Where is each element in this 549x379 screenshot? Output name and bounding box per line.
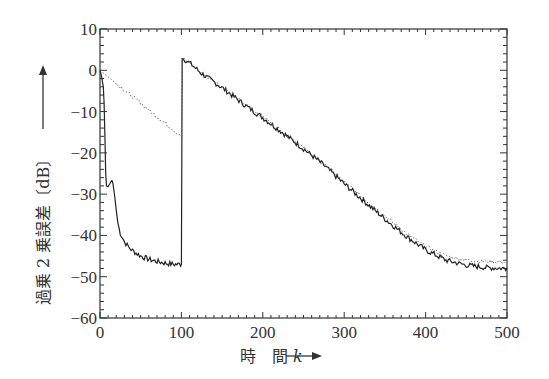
y-tick-label: −40 <box>70 226 97 245</box>
axis-ticks <box>100 29 507 318</box>
x-tick-label: 500 <box>494 323 520 342</box>
y-axis-title: 過乗 2 乗誤差〔dB〕 <box>34 65 53 305</box>
x-tick-label: 400 <box>413 323 439 342</box>
series-solid <box>100 58 507 271</box>
series-dotted <box>100 57 507 263</box>
chart: 0100200300400500100−10−20−30−40−50−60 時 … <box>0 0 549 379</box>
y-tick-label: −30 <box>70 185 97 204</box>
x-tick-label: 200 <box>250 323 276 342</box>
x-arrowhead-icon <box>312 352 322 360</box>
y-axis-label: 過乗 2 乗誤差〔dB〕 <box>34 151 53 305</box>
x-tick-label: 300 <box>331 323 357 342</box>
x-axis-title: 時 間 k <box>240 347 322 366</box>
data-series <box>100 57 507 270</box>
plot-frame <box>100 29 507 318</box>
y-tick-label: 10 <box>80 20 97 39</box>
x-tick-label: 100 <box>169 323 195 342</box>
y-tick-label: −50 <box>70 268 97 287</box>
y-arrowhead-icon <box>39 65 47 75</box>
x-tick-label: 0 <box>96 323 105 342</box>
tick-labels: 0100200300400500100−10−20−30−40−50−60 <box>70 20 519 342</box>
y-tick-label: −20 <box>70 144 97 163</box>
y-tick-label: −60 <box>70 309 97 328</box>
y-tick-label: −10 <box>70 103 97 122</box>
y-tick-label: 0 <box>89 61 98 80</box>
plot-border <box>100 29 507 318</box>
